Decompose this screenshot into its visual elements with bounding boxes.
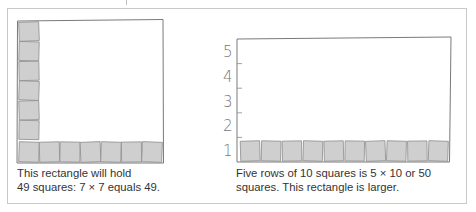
left-column-square (19, 22, 40, 42)
right-row-square (240, 141, 260, 162)
right-row-square (303, 141, 323, 162)
left-row-square (80, 142, 101, 163)
axis-label: 4 (223, 68, 233, 86)
right-rectangle-figure: 12345 (223, 37, 451, 162)
left-row-square (19, 142, 40, 163)
left-caption-line-1: This rectangle will hold (17, 167, 217, 181)
left-row-square (121, 142, 141, 162)
axis-label: 5 (223, 43, 233, 61)
right-caption: Five rows of 10 squares is 5 × 10 or 50 … (236, 167, 456, 194)
right-row-square (428, 141, 448, 162)
right-row-square (366, 141, 386, 162)
left-row-square (60, 142, 80, 162)
left-column-square (19, 120, 39, 139)
left-row-square (39, 142, 60, 163)
left-column-square (19, 81, 40, 101)
axis-label: 3 (223, 93, 233, 111)
right-row-square (387, 141, 407, 162)
left-row-square (142, 142, 163, 163)
left-column-square (19, 61, 39, 80)
right-row-square (345, 141, 365, 161)
right-row-square (261, 141, 281, 161)
left-caption: This rectangle will hold 49 squares: 7 ×… (17, 167, 217, 194)
left-column-square (19, 41, 39, 61)
right-row-square (282, 141, 302, 161)
right-caption-line-1: Five rows of 10 squares is 5 × 10 or 50 (236, 167, 456, 181)
left-row-square (101, 142, 122, 163)
right-row-square (408, 141, 428, 161)
axis-label: 1 (223, 142, 233, 160)
left-column-square (19, 101, 39, 121)
axis-label: 2 (223, 117, 233, 135)
right-row-square (324, 141, 344, 161)
left-rectangle-figure (17, 20, 164, 164)
right-caption-line-2: squares. This rectangle is larger. (236, 181, 456, 195)
left-caption-line-2: 49 squares: 7 × 7 equals 49. (17, 181, 217, 195)
